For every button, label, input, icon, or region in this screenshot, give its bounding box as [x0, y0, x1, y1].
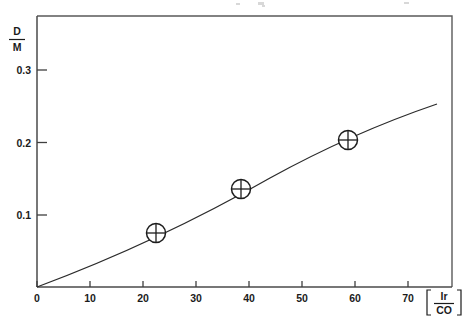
y-tick-label-01: 0.1 [16, 209, 31, 221]
y-axis-label-denominator: M [13, 41, 22, 53]
y-tick-label-02: 0.2 [16, 137, 31, 149]
x-tick-label-70: 70 [402, 292, 414, 304]
x-axis-label-numerator: Ir [440, 290, 447, 302]
x-tick-label-60: 60 [349, 292, 361, 304]
x-tick-label-40: 40 [243, 292, 255, 304]
x-tick-label-0: 0 [34, 292, 40, 304]
x-axis-label-denominator: CO [436, 304, 452, 316]
data-point-marker [147, 224, 166, 243]
data-point-marker [232, 180, 251, 199]
x-tick-label-20: 20 [137, 292, 149, 304]
data-point-marker [339, 131, 358, 150]
x-tick-label-10: 10 [84, 292, 96, 304]
y-axis-label-numerator: D [13, 25, 21, 37]
chart-background [0, 0, 475, 318]
x-tick-label-50: 50 [296, 292, 308, 304]
x-tick-label-30: 30 [190, 292, 202, 304]
y-tick-label-03: 0.3 [16, 64, 31, 76]
chart-figure: 0.3 0.2 0.1 0 10 20 30 40 50 60 70 [0, 0, 475, 318]
chart-canvas: 0.3 0.2 0.1 0 10 20 30 40 50 60 70 [0, 0, 475, 318]
